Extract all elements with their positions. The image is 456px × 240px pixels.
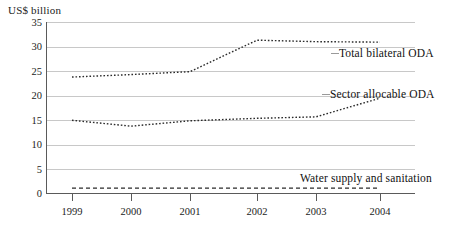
annotation-sector-allocable-oda: Sector allocable ODA xyxy=(330,88,435,100)
y-tick-label: 10 xyxy=(12,139,42,150)
annotation-leader-sector xyxy=(322,94,330,95)
y-tick-label: 30 xyxy=(12,41,42,52)
annotation-water-supply-and-sanitation: Water supply and sanitation xyxy=(300,172,432,184)
x-tick-2003 xyxy=(316,194,317,201)
y-tick-label: 0 xyxy=(12,188,42,199)
x-tick-label-1999: 1999 xyxy=(47,206,97,217)
annotation-leader-total xyxy=(331,53,339,54)
y-tick-label: 20 xyxy=(12,90,42,101)
x-tick-label-2002: 2002 xyxy=(232,206,282,217)
annotation-total-bilateral-oda: Total bilateral ODA xyxy=(339,47,434,59)
x-tick-2002 xyxy=(257,194,258,201)
x-tick-2000 xyxy=(131,194,132,201)
series-line-sector-allocable-oda xyxy=(72,98,380,126)
series-line-total-bilateral-oda xyxy=(72,40,380,77)
x-tick-label-2003: 2003 xyxy=(291,206,341,217)
y-tick-label: 35 xyxy=(12,17,42,28)
x-tick-label-2004: 2004 xyxy=(355,206,405,217)
y-tick-label: 25 xyxy=(12,66,42,77)
chart-container: US$ billion 35 30 25 20 15 10 5 0 1999 2… xyxy=(0,0,456,240)
x-tick-label-2001: 2001 xyxy=(165,206,215,217)
y-tick-label: 15 xyxy=(12,115,42,126)
y-tick-label: 5 xyxy=(12,164,42,175)
x-tick-2001 xyxy=(190,194,191,201)
x-tick-1999 xyxy=(72,194,73,201)
x-tick-label-2000: 2000 xyxy=(106,206,156,217)
x-tick-2004 xyxy=(380,194,381,201)
